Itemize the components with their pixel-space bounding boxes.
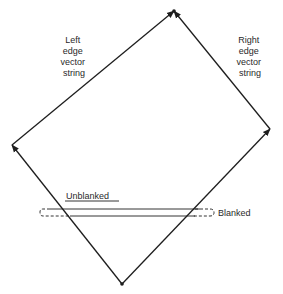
unblanked-label: Unblanked xyxy=(66,191,109,201)
polygon-fill-diagram: Left edge vector string Right edge vecto… xyxy=(0,0,283,294)
blanked-label: Blanked xyxy=(218,208,251,218)
left-edge-label: Left edge vector string xyxy=(60,35,87,78)
vertex-top xyxy=(172,9,176,13)
left-edge-vector-string xyxy=(12,11,174,284)
right-edge-label: Right edge vector string xyxy=(236,35,263,78)
vertex-bottom xyxy=(120,282,124,286)
